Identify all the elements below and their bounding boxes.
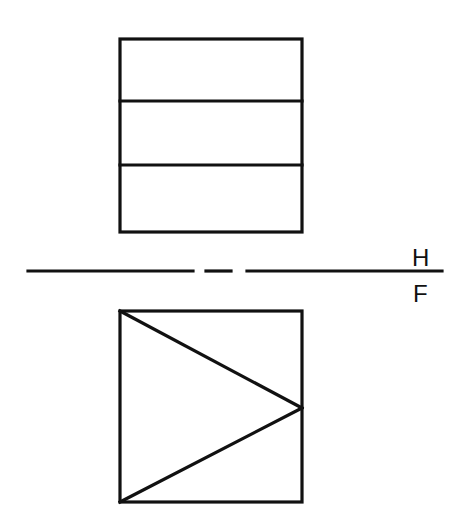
label-h: H [412,244,429,271]
front-view-lower-edge [120,408,302,502]
front-view [120,311,302,502]
label-f: F [413,280,428,307]
top-view-outline [120,39,302,232]
projection-diagram: H F [0,0,467,529]
reference-line: H F [28,244,442,307]
front-view-upper-edge [120,311,302,408]
top-view [120,39,302,232]
front-view-outline [120,311,302,502]
